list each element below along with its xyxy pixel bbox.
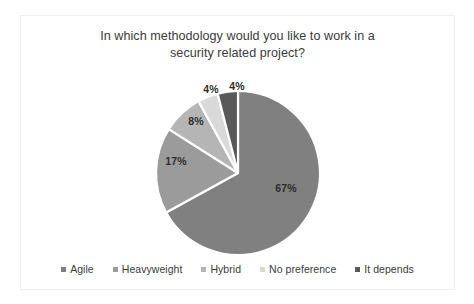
chart-card: In which methodology would you like to w… <box>20 15 455 290</box>
legend-item-it-depends[interactable]: It depends <box>355 263 414 275</box>
slice-label-heavyweight: 17% <box>165 155 187 167</box>
chart-legend: AgileHeavyweightHybridNo preferenceIt de… <box>21 263 454 275</box>
legend-item-heavyweight[interactable]: Heavyweight <box>113 263 183 275</box>
pie-chart-plot-area: 67% 17% 8% 4% 4% <box>21 16 456 291</box>
slice-label-it-depends: 4% <box>229 80 245 92</box>
legend-item-no-preference[interactable]: No preference <box>260 263 336 275</box>
legend-label-heavyweight: Heavyweight <box>122 263 183 275</box>
slice-label-no-preference: 4% <box>203 83 219 95</box>
legend-item-agile[interactable]: Agile <box>61 263 94 275</box>
legend-label-it-depends: It depends <box>364 263 414 275</box>
pie-chart-svg <box>21 16 456 291</box>
pie-slice-group <box>156 91 320 255</box>
legend-label-no-preference: No preference <box>269 263 336 275</box>
legend-item-hybrid[interactable]: Hybrid <box>201 263 241 275</box>
legend-swatch-heavyweight <box>113 267 118 272</box>
legend-label-hybrid: Hybrid <box>210 263 241 275</box>
legend-swatch-it-depends <box>355 267 360 272</box>
legend-swatch-agile <box>61 267 66 272</box>
legend-swatch-hybrid <box>201 267 206 272</box>
slice-label-hybrid: 8% <box>188 115 204 127</box>
slice-label-agile: 67% <box>275 182 297 194</box>
legend-label-agile: Agile <box>70 263 94 275</box>
legend-swatch-no-preference <box>260 267 265 272</box>
